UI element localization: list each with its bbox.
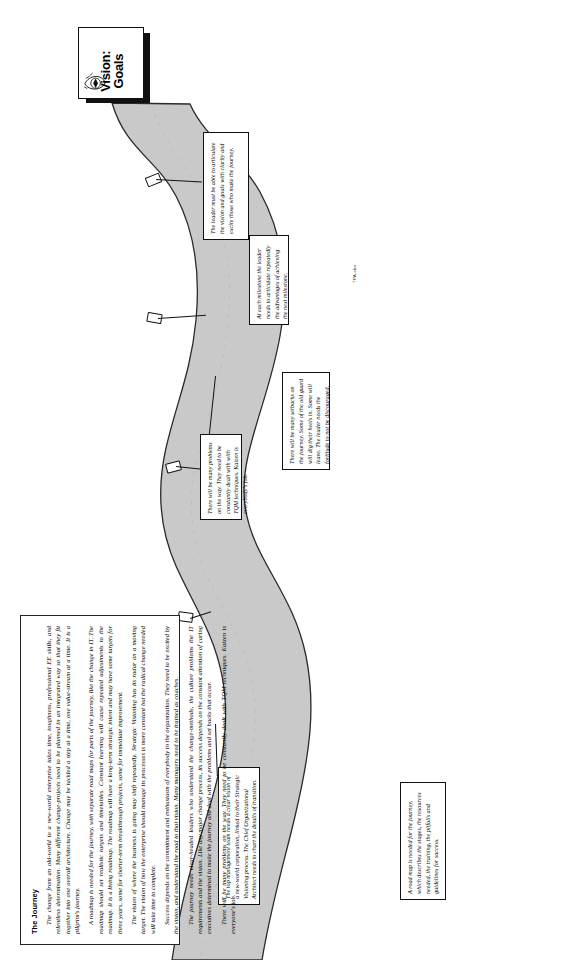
sign-face: Vision: Goals bbox=[78, 27, 144, 99]
vision-goals-signpost[interactable]: Vision: Goals bbox=[78, 27, 150, 105]
body-paragraph-5: The journey needs clear-headed leaders w… bbox=[186, 626, 214, 934]
callout-text: The leader must be able to articulate th… bbox=[209, 138, 235, 234]
callout-text: There will be many setbacks on the journ… bbox=[288, 378, 332, 464]
callout-setbacks[interactable]: There will be many setbacks on the journ… bbox=[282, 372, 330, 470]
callout-roadmap[interactable]: A road map is needed for the journey, wh… bbox=[400, 782, 446, 900]
callout-text: A road map is needed for the journey, wh… bbox=[406, 788, 441, 894]
body-paragraph-2: A roadmap is needed for the journey, wit… bbox=[86, 626, 123, 934]
callout-text: There will be many problems on the way. … bbox=[206, 440, 250, 514]
callout-leader-articulate[interactable]: The leader must be able to articulate th… bbox=[203, 132, 249, 240]
page-title: The Journey bbox=[30, 626, 39, 934]
journey-text-block: The Journey The change from an old-world… bbox=[20, 615, 180, 945]
sign-line-goals: Goals bbox=[111, 54, 126, 89]
callout-problems-kaizen[interactable]: There will be many problems on the way. … bbox=[200, 434, 242, 520]
body-paragraph-4: Success depends on the commitment and en… bbox=[162, 626, 181, 934]
body-paragraph-6: There will be many problems on the way. … bbox=[219, 626, 238, 934]
body-paragraph-1: The change from an old-world to a new-wo… bbox=[44, 626, 81, 934]
body-paragraph-3: The vision of where the business is goin… bbox=[129, 626, 157, 934]
credit-label: TPA-sbn bbox=[352, 265, 357, 283]
page-canvas: Vision: Goals The leader must be able to… bbox=[0, 0, 578, 960]
sign-label-block: Vision: Goals bbox=[99, 36, 126, 106]
callout-milestone-articulate[interactable]: At each milestone the leader needs to ar… bbox=[249, 235, 289, 325]
callout-text: At each milestone the leader needs to ar… bbox=[255, 241, 290, 319]
